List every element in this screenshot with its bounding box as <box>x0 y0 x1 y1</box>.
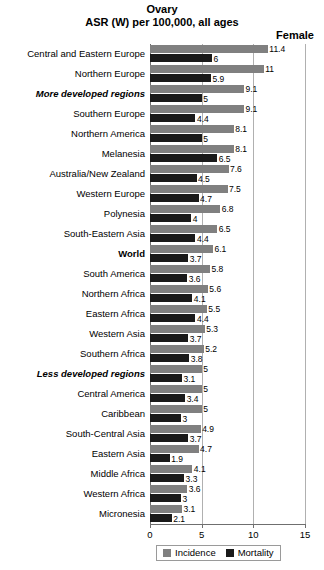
bar-incidence <box>150 445 199 453</box>
chart-row: Less developed regions53.1 <box>0 364 324 384</box>
bar-incidence <box>150 145 234 153</box>
chart-row: Melanesia8.16.5 <box>0 144 324 164</box>
bar-value-incidence: 5 <box>203 365 208 374</box>
row-label: Western Asia <box>0 324 145 344</box>
bar-incidence <box>150 65 264 73</box>
bar-mortality <box>150 374 182 382</box>
bar-incidence <box>150 365 202 373</box>
chart-row: Eastern Africa5.54.4 <box>0 304 324 324</box>
bar-value-mortality: 4 <box>193 215 198 224</box>
bar-value-mortality: 5.9 <box>212 75 224 84</box>
chart-title: Ovary <box>0 3 324 16</box>
bar-value-incidence: 6.8 <box>222 205 234 214</box>
row-bars: 53 <box>150 404 305 424</box>
bar-incidence <box>150 45 268 53</box>
bar-incidence <box>150 85 244 93</box>
x-tick-label: 5 <box>199 529 204 540</box>
bar-value-incidence: 4.1 <box>194 465 206 474</box>
x-tick <box>202 524 203 528</box>
chart-row: More developed regions9.15 <box>0 84 324 104</box>
legend-swatch-incidence-icon <box>163 549 171 557</box>
row-label: Central America <box>0 384 145 404</box>
bar-value-incidence: 6.5 <box>219 225 231 234</box>
bar-value-mortality: 3.3 <box>186 475 198 484</box>
chart-row: Central America53.4 <box>0 384 324 404</box>
row-bars: 4.93.7 <box>150 424 305 444</box>
row-label: South-Eastern Asia <box>0 224 145 244</box>
row-bars: 11.46 <box>150 44 305 64</box>
bar-value-mortality: 4.4 <box>197 115 209 124</box>
bar-value-incidence: 5.3 <box>206 325 218 334</box>
row-label: South-Central Asia <box>0 424 145 444</box>
bar-value-mortality: 3.7 <box>190 255 202 264</box>
x-tick-label: 15 <box>300 529 311 540</box>
bar-mortality <box>150 354 189 362</box>
bar-value-incidence: 5.8 <box>211 265 223 274</box>
bar-value-mortality: 1.9 <box>171 455 183 464</box>
bar-incidence <box>150 325 205 333</box>
legend-item-mortality: Mortality <box>226 548 274 558</box>
bar-mortality <box>150 234 195 242</box>
row-bars: 9.15 <box>150 84 305 104</box>
row-label: Middle Africa <box>0 464 145 484</box>
row-bars: 8.16.5 <box>150 144 305 164</box>
bar-value-incidence: 9.1 <box>246 85 258 94</box>
bar-value-mortality: 4.5 <box>198 175 210 184</box>
row-label: Polynesia <box>0 204 145 224</box>
bar-value-mortality: 3 <box>183 495 188 504</box>
bar-mortality <box>150 94 202 102</box>
bar-incidence <box>150 405 202 413</box>
chart-row: Middle Africa4.13.3 <box>0 464 324 484</box>
bar-value-mortality: 4.4 <box>197 315 209 324</box>
bar-mortality <box>150 414 181 422</box>
bar-mortality <box>150 274 187 282</box>
bar-value-incidence: 7.6 <box>230 165 242 174</box>
bar-mortality <box>150 254 188 262</box>
row-bars: 6.84 <box>150 204 305 224</box>
bar-value-incidence: 5.5 <box>208 305 220 314</box>
bar-incidence <box>150 385 202 393</box>
chart-row: Northern Africa5.64.1 <box>0 284 324 304</box>
bar-value-incidence: 4.7 <box>200 445 212 454</box>
bar-value-incidence: 11 <box>265 65 274 74</box>
row-label: Central and Eastern Europe <box>0 44 145 64</box>
bar-value-mortality: 2.1 <box>173 515 185 524</box>
x-tick-label: 10 <box>248 529 259 540</box>
bar-value-incidence: 11.4 <box>269 45 285 54</box>
bar-value-mortality: 3.7 <box>190 435 202 444</box>
chart-row: Caribbean53 <box>0 404 324 424</box>
row-label: Southern Europe <box>0 104 145 124</box>
chart-row: South-Central Asia4.93.7 <box>0 424 324 444</box>
bar-value-incidence: 5 <box>203 385 208 394</box>
row-bars: 7.54.7 <box>150 184 305 204</box>
chart-row: Polynesia6.84 <box>0 204 324 224</box>
row-bars: 115.9 <box>150 64 305 84</box>
chart-header: Ovary ASR (W) per 100,000, all ages <box>0 0 324 29</box>
bar-incidence <box>150 465 192 473</box>
row-bars: 7.64.5 <box>150 164 305 184</box>
bar-value-mortality: 3 <box>183 415 188 424</box>
bar-incidence <box>150 305 207 313</box>
chart-row: Australia/New Zealand7.64.5 <box>0 164 324 184</box>
bar-incidence <box>150 125 234 133</box>
legend-label-incidence: Incidence <box>175 548 216 558</box>
x-tick <box>253 524 254 528</box>
row-label: Western Europe <box>0 184 145 204</box>
row-label: Eastern Asia <box>0 444 145 464</box>
chart-row: Southern Europe9.14.4 <box>0 104 324 124</box>
bar-mortality <box>150 394 185 402</box>
bar-value-incidence: 3.6 <box>189 485 201 494</box>
row-label: More developed regions <box>0 84 145 104</box>
row-label: South America <box>0 264 145 284</box>
bar-value-incidence: 8.1 <box>235 145 247 154</box>
bar-value-mortality: 3.7 <box>190 335 202 344</box>
bar-mortality <box>150 214 191 222</box>
bar-value-mortality: 5 <box>203 135 208 144</box>
sex-label: Female <box>276 29 314 41</box>
row-label: Southern Africa <box>0 344 145 364</box>
bar-mortality <box>150 434 188 442</box>
bar-value-incidence: 6.1 <box>215 245 227 254</box>
bar-mortality <box>150 454 170 462</box>
row-bars: 4.71.9 <box>150 444 305 464</box>
x-tick <box>305 524 306 528</box>
